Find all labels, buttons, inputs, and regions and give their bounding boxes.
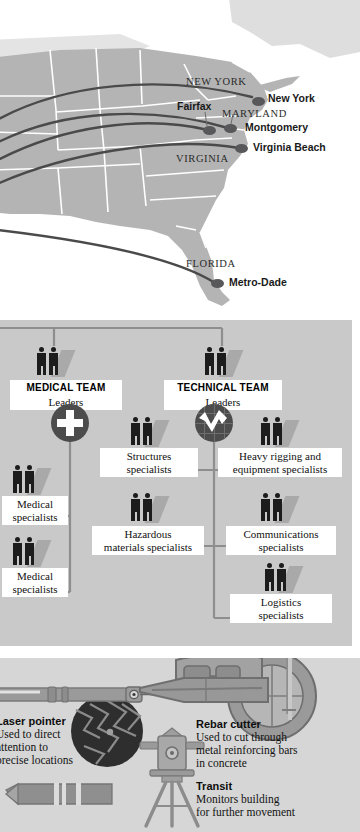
org-label-line2: specialists <box>230 541 332 554</box>
tool-desc-transit: Monitors building for further movement <box>196 793 295 819</box>
city-label-virginia-beach: Virginia Beach <box>253 141 326 153</box>
team-structure-section: MEDICAL TEAM Leaders TECHNICAL TEAM Lead… <box>0 318 360 650</box>
state-label-new-york: NEW YORK <box>186 76 247 87</box>
city-dot-virginia-beach <box>235 144 248 153</box>
org-box-medical-specialists-1: Medical specialists <box>2 496 68 525</box>
org-label-line1: Hazardous <box>96 528 200 541</box>
org-label-line1: Structures <box>104 450 194 463</box>
people-icon-medical-specialists-2 <box>10 534 50 568</box>
org-box-logistics-specialists: Logistics specialists <box>230 594 332 623</box>
equipment-panel: Laser pointer Used to direct attention t… <box>0 658 360 832</box>
state-label-virginia: VIRGINIA <box>176 153 229 164</box>
people-icon-medical-specialists-1 <box>10 462 50 496</box>
tool-title-transit: Transit <box>196 780 295 793</box>
people-icon-technical-leaders <box>202 344 242 378</box>
org-label-line2: specialists <box>6 511 64 524</box>
technical-gauge-icon <box>195 404 233 442</box>
tool-desc-line: Used to direct <box>0 728 73 741</box>
org-label-line2: materials specialists <box>96 541 200 554</box>
tool-desc-line: Used to cut through <box>196 731 298 744</box>
org-box-structures-specialists: Structures specialists <box>100 448 198 477</box>
tool-desc-line: attention to <box>0 741 73 754</box>
medical-cross-icon <box>51 404 89 442</box>
tool-block-laser-pointer: Laser pointer Used to direct attention t… <box>0 715 73 767</box>
people-icon-hazardous-materials-specialists <box>128 490 168 524</box>
tool-desc-line: in concrete <box>196 757 298 770</box>
technical-team-title: TECHNICAL TEAM <box>168 382 278 395</box>
city-label-montgomery: Montgomery <box>245 121 308 133</box>
transit-icon <box>140 728 204 826</box>
city-dot-new-york <box>252 97 265 106</box>
state-label-maryland: MARYLAND <box>222 108 287 119</box>
tool-block-transit: Transit Monitors building for further mo… <box>196 780 295 819</box>
tool-desc-line: precise locations <box>0 754 73 767</box>
city-dot-metro-dade <box>211 279 224 288</box>
tool-desc-rebar-cutter: Used to cut through metal reinforcing ba… <box>196 731 298 770</box>
people-icon-communications-specialists <box>258 490 298 524</box>
org-label-line2: specialists <box>234 609 328 622</box>
people-icon-logistics-specialists <box>262 560 302 594</box>
org-label-line2: specialists <box>6 583 64 596</box>
laser-pointer-inset-icon <box>71 695 143 767</box>
org-box-hazardous-materials-specialists: Hazardous materials specialists <box>92 526 204 555</box>
city-label-fairfax: Fairfax <box>177 100 211 112</box>
org-label-line1: Heavy rigging and <box>222 450 338 463</box>
org-label-line1: Medical <box>6 498 64 511</box>
tool-title-laser-pointer: Laser pointer <box>0 715 73 728</box>
tool-desc-laser-pointer: Used to direct attention to precise loca… <box>0 728 73 767</box>
tool-title-rebar-cutter: Rebar cutter <box>196 718 298 731</box>
org-label-line1: Medical <box>6 570 64 583</box>
canada-landmass <box>228 0 360 58</box>
people-icon-structures-specialists <box>128 414 168 448</box>
city-label-metro-dade: Metro-Dade <box>229 276 287 288</box>
org-label-line1: Logistics <box>234 596 328 609</box>
people-icon-medical-leaders <box>34 344 74 378</box>
city-dot-fairfax <box>203 126 216 135</box>
people-icon-heavy-rigging-specialists <box>258 414 298 448</box>
org-chart: MEDICAL TEAM Leaders TECHNICAL TEAM Lead… <box>0 320 352 646</box>
tool-desc-line: for further movement <box>196 806 295 819</box>
city-label-new-york: New York <box>268 92 315 104</box>
tool-desc-line: metal reinforcing bars <box>196 744 298 757</box>
marker-pen-icon <box>6 783 112 805</box>
tool-block-rebar-cutter: Rebar cutter Used to cut through metal r… <box>196 718 298 770</box>
equipment-section: Laser pointer Used to direct attention t… <box>0 650 360 832</box>
medical-team-title: MEDICAL TEAM <box>14 382 118 395</box>
org-box-medical-specialists-2: Medical specialists <box>2 568 68 597</box>
org-label-line2: equipment specialists <box>222 463 338 476</box>
map-section: NEW YORK MARYLAND VIRGINIA FLORIDA New Y… <box>0 0 360 318</box>
org-box-communications-specialists: Communications specialists <box>226 526 336 555</box>
org-label-line2: specialists <box>104 463 194 476</box>
tool-desc-line: Monitors building <box>196 793 295 806</box>
org-box-heavy-rigging-specialists: Heavy rigging and equipment specialists <box>218 448 342 477</box>
state-label-florida: FLORIDA <box>186 258 236 269</box>
org-label-line1: Communications <box>230 528 332 541</box>
city-dot-montgomery <box>224 124 237 133</box>
